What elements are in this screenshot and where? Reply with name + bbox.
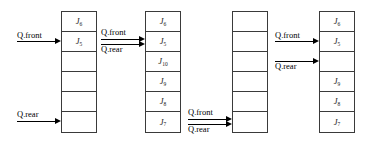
queue-cell — [62, 112, 96, 132]
queue-cell: J6 — [62, 12, 96, 32]
queue-cell — [233, 32, 267, 52]
queue-cell: J6 — [320, 12, 354, 32]
queue-cell: J5 — [146, 32, 180, 52]
pointer-label-rear: Q.rear — [275, 62, 296, 71]
arrowhead-icon — [55, 38, 61, 44]
queue-cell: J9 — [146, 72, 180, 92]
queue-cell — [62, 72, 96, 92]
queue-cell: J5 — [62, 32, 96, 52]
queue-cell: J7 — [320, 112, 354, 132]
arrowhead-icon — [139, 41, 145, 47]
cell-label: J6 — [334, 17, 341, 26]
queue-cell — [233, 92, 267, 112]
arrowhead-icon — [226, 121, 232, 127]
queue-column-1: J6 J5 — [61, 11, 97, 133]
cell-label: J5 — [160, 37, 167, 46]
queue-cell: J8 — [146, 92, 180, 112]
queue-cell — [233, 112, 267, 132]
pointer-label-rear: Q.rear — [101, 45, 122, 54]
queue-cell — [233, 52, 267, 72]
pointer-line — [17, 121, 55, 122]
cell-label: J8 — [160, 97, 167, 106]
queue-cell: J9 — [320, 72, 354, 92]
queue-cell: J8 — [320, 92, 354, 112]
pointer-label-front: Q.front — [188, 108, 213, 117]
queue-column-2: J6 J5 J10 J9 J8 J7 — [145, 11, 181, 133]
pointer-label-front: Q.front — [101, 28, 126, 37]
pointer-line — [17, 41, 55, 42]
cell-label: J9 — [334, 77, 341, 86]
pointer-line — [275, 41, 313, 42]
pointer-label-rear: Q.rear — [17, 110, 38, 119]
queue-cell — [62, 52, 96, 72]
queue-cell — [233, 12, 267, 32]
cell-label: J8 — [334, 97, 341, 106]
queue-column-3 — [232, 11, 268, 133]
arrowhead-icon — [313, 38, 319, 44]
queue-cell — [320, 52, 354, 72]
cell-label: J10 — [158, 57, 167, 66]
queue-cell: J5 — [320, 32, 354, 52]
pointer-label-rear: Q.rear — [188, 125, 209, 134]
cell-label: J6 — [160, 17, 167, 26]
pointer-label-front: Q.front — [17, 31, 42, 40]
cell-label: J7 — [334, 118, 341, 127]
cell-label: J9 — [160, 77, 167, 86]
cell-label: J5 — [334, 37, 341, 46]
queue-diagram: J6 J5 Q.front Q.rear J6 J5 — [0, 0, 368, 146]
pointer-line — [188, 119, 226, 120]
queue-cell: J6 — [146, 12, 180, 32]
queue-cell — [62, 92, 96, 112]
queue-cell — [233, 72, 267, 92]
arrowhead-icon — [55, 118, 61, 124]
pointer-line — [101, 39, 139, 40]
queue-cell: J10 — [146, 52, 180, 72]
queue-cell: J7 — [146, 112, 180, 132]
cell-label: J6 — [76, 17, 83, 26]
queue-column-4: J6 J5 J9 J8 J7 — [319, 11, 355, 133]
pointer-label-front: Q.front — [275, 31, 300, 40]
cell-label: J7 — [160, 118, 167, 127]
cell-label: J5 — [76, 37, 83, 46]
arrowhead-icon — [313, 58, 319, 64]
